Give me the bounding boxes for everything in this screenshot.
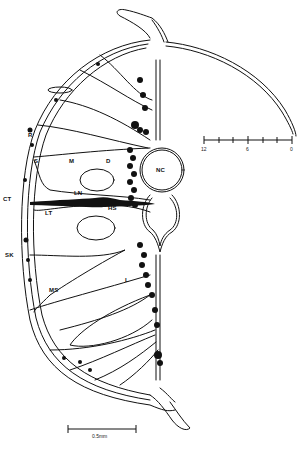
scale-bar-label: 0.5mm [92,434,107,439]
label-M: M [69,158,74,164]
label-LT: LT [45,210,52,216]
ruler-label-12: 12 [201,147,207,152]
right-arc-outline [166,42,296,136]
label-D: D [106,158,111,164]
anatomical-cross-section-diagram [0,0,298,450]
oval-lower [77,216,115,240]
ruler-label-6: 6 [246,147,249,152]
scale-bar [68,425,136,433]
outer-skin-outline [22,40,175,411]
scale-ruler [204,136,292,144]
dorsal-fin-outline [117,9,168,42]
label-S: S [34,158,38,164]
label-L: L [125,277,129,283]
label-MS: MS [49,287,58,293]
label-HS: HS [108,205,117,211]
ventral-fin-outline [150,395,190,430]
label-NC: NC [156,167,165,173]
ruler-label-0: 0 [290,147,293,152]
label-CT: CT [3,196,11,202]
oval-middle [80,169,114,191]
label-LN: LN [74,190,82,196]
label-SK: SK [5,252,14,258]
nerve-cluster-dots [23,62,163,372]
label-R: R [28,132,33,138]
